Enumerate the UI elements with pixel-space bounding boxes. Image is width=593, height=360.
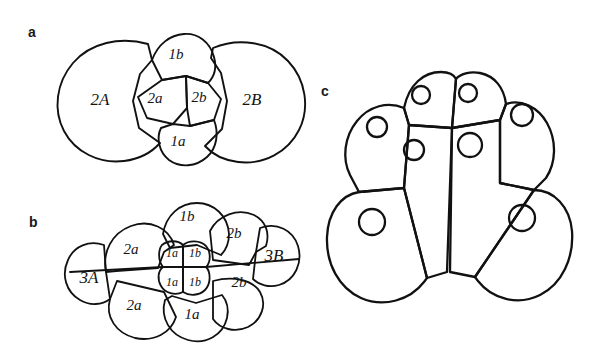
cell-outline-2a-lower: [109, 281, 176, 339]
nucleus-inner-right: [458, 133, 482, 157]
panel-c-artwork: [327, 72, 572, 302]
cell-label-1b-center-upper: 1b: [189, 247, 201, 259]
cell-label-2b: 2b: [192, 90, 207, 105]
panel-b-artwork: [65, 203, 300, 341]
figure-artwork: [0, 0, 593, 360]
nucleus-lower-left: [359, 209, 385, 235]
cell-label-2a-lower: 2a: [127, 298, 142, 313]
cell-outline-c-lower-left: [327, 188, 427, 302]
cell-label-2b-upper: 2b: [227, 226, 242, 241]
figure-root: a b c 2A 1b 2a 2b 1a 2B 3A 2a 2a 1b 1a 1…: [0, 0, 593, 360]
cell-label-1a-center-upper: 1a: [166, 247, 178, 259]
cell-label-1b-top-b: 1b: [180, 209, 195, 224]
cell-label-1a-bottom-a: 1a: [171, 134, 186, 149]
cell-label-1b-top-a: 1b: [169, 47, 184, 62]
cell-label-1b-center-lower: 1b: [189, 276, 201, 288]
panel-label-c: c: [321, 84, 329, 98]
nucleus-upper-left: [367, 117, 387, 137]
cell-outline-2a: [138, 76, 187, 124]
nucleus-apical-right: [459, 84, 477, 102]
nucleus-apical-left: [412, 86, 430, 104]
cell-label-2b-lower: 2b: [232, 275, 247, 290]
cell-label-2B: 2B: [243, 91, 262, 108]
cell-outline-c-lower-right: [475, 190, 572, 300]
panel-label-a: a: [28, 25, 36, 39]
panel-label-b: b: [29, 215, 38, 229]
cell-label-2a: 2a: [148, 91, 163, 106]
cell-label-2A: 2A: [91, 91, 110, 108]
cell-outline-c-upper-right: [500, 103, 554, 190]
cell-label-1a-center-lower: 1a: [166, 276, 178, 288]
cell-outline-c-inner-left: [404, 125, 452, 278]
cell-outline-c-apical-left: [404, 72, 456, 128]
cell-label-2a-upper: 2a: [124, 242, 139, 257]
cell-label-1a-bottom-b: 1a: [185, 307, 200, 322]
nucleus-upper-right: [511, 104, 533, 126]
cell-label-3B: 3B: [265, 247, 284, 264]
cell-label-3A: 3A: [80, 269, 99, 286]
